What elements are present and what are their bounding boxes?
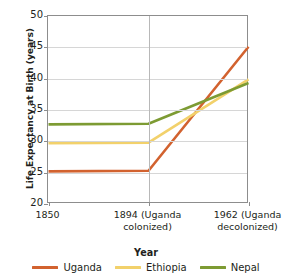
gridline-horizontal [48,110,247,111]
legend-item-uganda[interactable]: Uganda [32,262,102,273]
x-axis-tick-label-line: 1962 (Uganda [198,209,293,221]
gridline-vertical [149,16,150,202]
legend-label: Ethiopia [146,262,187,273]
x-axis-title: Year [0,247,292,258]
legend-label: Nepal [231,262,260,273]
y-axis-tick-mark [44,79,48,80]
plot-area [47,15,248,203]
y-axis-tick-mark [44,47,48,48]
y-axis-tick-label: 50 [19,10,43,20]
x-axis-tick-label-line: colonized) [98,221,198,233]
legend-swatch-icon [115,266,141,269]
x-axis-tick-label-line: decolonized) [198,221,293,233]
x-axis-tick-label: 1962 (Ugandadecolonized) [198,209,293,232]
gridline-horizontal [48,47,247,48]
line-chart: Life Expectancy at Birth (years) 5045403… [0,0,292,280]
y-axis-tick-label: 25 [19,167,43,177]
legend-item-nepal[interactable]: Nepal [200,262,260,273]
y-axis-tick-label: 20 [19,198,43,208]
y-axis-tick-label: 45 [19,41,43,51]
y-axis-tick-mark [44,141,48,142]
x-axis-tick-label: 1894 (Ugandacolonized) [98,209,198,232]
chart-legend: UgandaEthiopiaNepal [0,262,292,273]
x-axis-tick-mark [149,202,150,206]
y-axis-tick-label: 40 [19,73,43,83]
y-axis-tick-labels: 50454035302520 [17,0,43,210]
y-axis-tick-label: 30 [19,135,43,145]
x-axis-tick-mark [49,202,50,206]
y-axis-tick-mark [44,173,48,174]
gridline-horizontal [48,79,247,80]
gridline-horizontal [48,173,247,174]
y-axis-tick-label: 35 [19,104,43,114]
y-axis-tick-mark [44,110,48,111]
legend-swatch-icon [200,266,226,269]
x-axis-tick-label-line: 1850 [0,209,98,221]
x-axis-tick-mark [249,202,250,206]
legend-swatch-icon [32,266,58,269]
legend-item-ethiopia[interactable]: Ethiopia [115,262,187,273]
gridline-horizontal [48,141,247,142]
x-axis-tick-label-line: 1894 (Uganda [98,209,198,221]
legend-label: Uganda [63,262,102,273]
y-axis-tick-mark [44,16,48,17]
x-axis-tick-label: 1850 [0,209,98,221]
y-axis-tick-mark [44,204,48,205]
